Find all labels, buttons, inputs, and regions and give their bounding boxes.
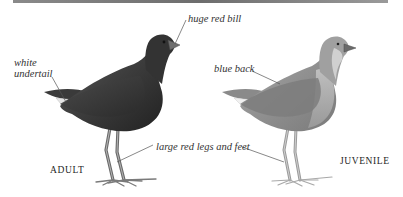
leader-huge-bill [175,20,186,44]
leader-blue-back [252,71,280,84]
label-white-undertail-line1: white [14,57,53,68]
adult-eye [163,41,166,44]
leader-legs-adult [117,145,153,162]
juvenile-eye [337,43,340,46]
label-white-undertail-line2: undertail [14,68,53,79]
label-huge-red-bill: huge red bill [188,13,241,24]
adult-legs [106,128,124,180]
juvenile-feet [272,177,332,186]
juvenile-bird [222,37,356,186]
juvenile-bill [344,44,356,52]
adult-feet [96,179,156,186]
juvenile-legs [284,128,300,180]
adult-bill [168,40,180,50]
caption-juvenile: JUVENILE [340,156,390,166]
label-blue-back: blue back [214,63,255,74]
caption-adult: ADULT [50,165,84,175]
label-large-red-legs-and-feet: large red legs and feet [156,141,250,152]
label-white-undertail: white undertail [14,57,53,79]
adult-bird [44,35,180,186]
